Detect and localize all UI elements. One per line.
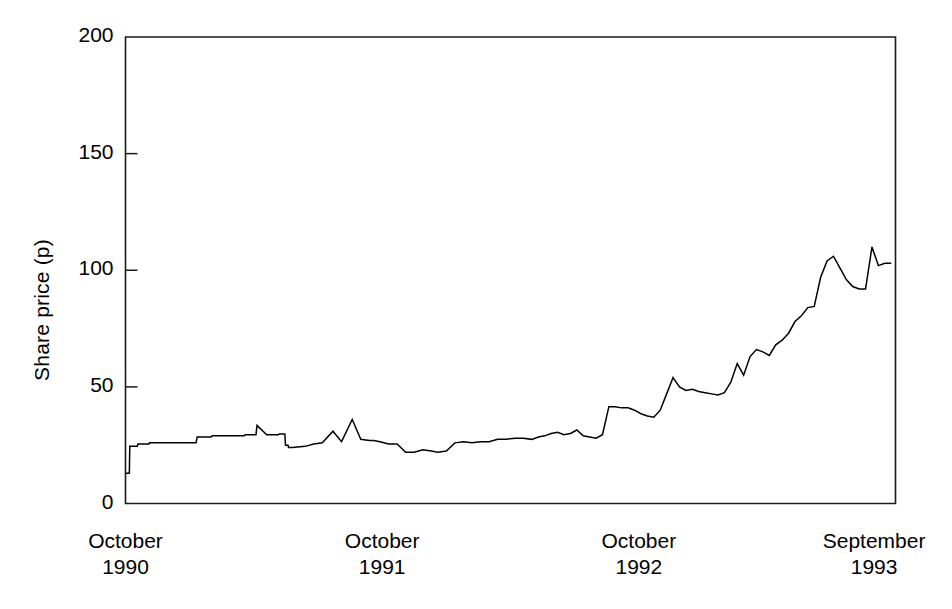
y-axis-tick-label: 0	[54, 490, 114, 514]
data-series-group	[126, 247, 892, 473]
y-axis-tick-label: 150	[54, 140, 114, 164]
x-axis-tick-month: October	[544, 528, 734, 554]
x-axis-tick-year: 1990	[31, 554, 221, 580]
y-axis-tick-label: 200	[54, 23, 114, 47]
x-axis-tick-label: September1993	[779, 528, 952, 579]
x-axis-tick-label: October1990	[31, 528, 221, 579]
x-axis-tick-month: October	[31, 528, 221, 554]
axis-frame	[126, 37, 896, 504]
y-axis-ticks	[126, 154, 138, 387]
x-axis-tick-year: 1991	[287, 554, 477, 580]
x-axis-tick-label: October1992	[544, 528, 734, 579]
x-axis-tick-month: October	[287, 528, 477, 554]
share-price-chart-figure: Share price (p) 050100150200 October1990…	[0, 0, 952, 609]
share-price-line	[126, 247, 892, 473]
x-axis-tick-year: 1993	[779, 554, 952, 580]
y-axis-tick-label: 100	[54, 256, 114, 280]
plot-area	[0, 0, 952, 609]
x-axis-tick-year: 1992	[544, 554, 734, 580]
y-axis-title-wrapper: Share price (p)	[22, 160, 62, 460]
x-axis-tick-month: September	[779, 528, 952, 554]
x-axis-tick-label: October1991	[287, 528, 477, 579]
y-axis-tick-label: 50	[54, 373, 114, 397]
y-axis-title: Share price (p)	[30, 239, 54, 381]
